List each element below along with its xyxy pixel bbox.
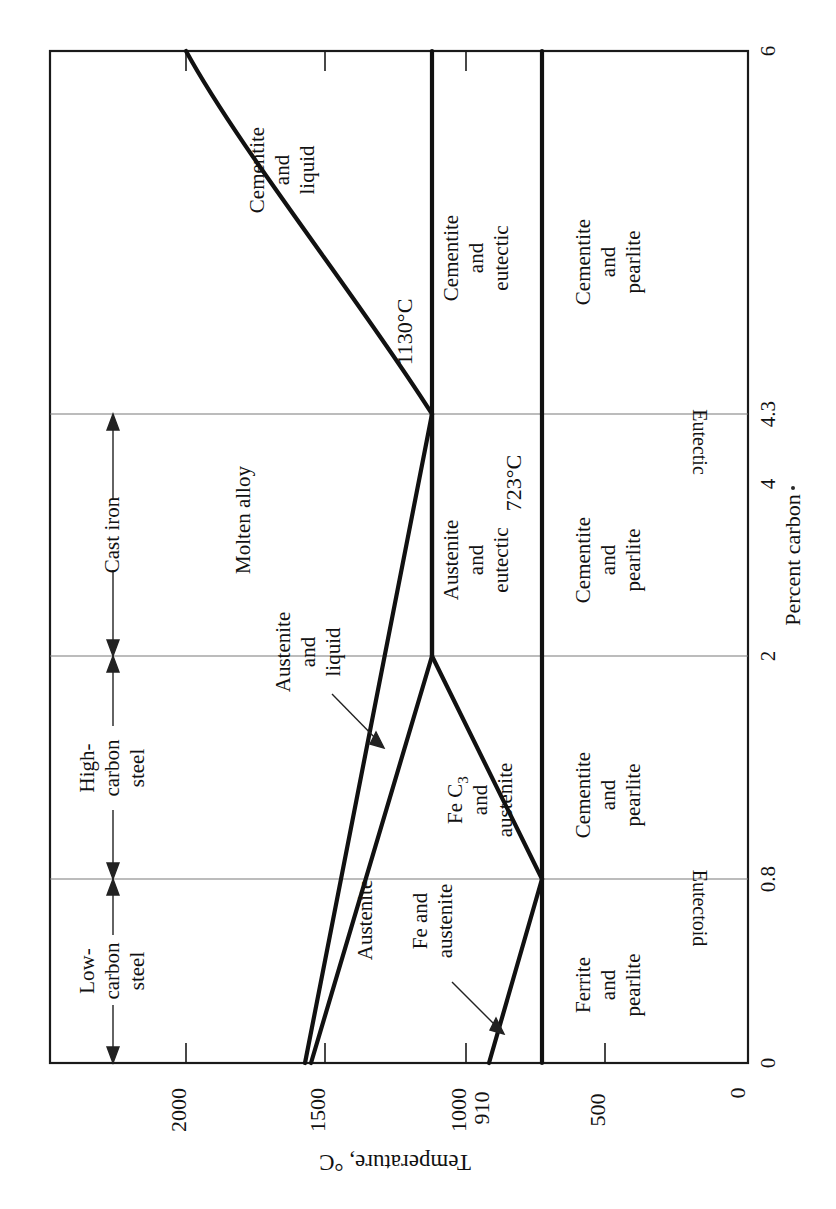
y-axis-title: Temperature, °C [319,1150,471,1175]
region-line-2: and [270,154,294,185]
label-1130C: 1130°C [392,299,417,366]
page-background [0,0,836,1209]
stray-dot-mark [791,486,795,490]
label-eutectoid: Eutectoid [689,870,711,947]
region-label-austenite: Austenite [353,880,377,960]
region-line-1: Cementite [439,215,463,301]
region-line-3: liquid [295,145,319,195]
bracket-label-line-2: carbon [100,942,124,1000]
x-axis-title: Percent carbon [780,494,805,625]
region-line-1: Fe and [408,892,432,949]
fe3c-formula-base: Fe C [443,784,467,824]
label-eutectic: Eutectic [689,409,711,475]
region-line-3: eutectic [489,527,513,592]
temp-tick-910: 910 [469,1092,494,1125]
bracket-label-line-3: steel [125,952,149,991]
region-line-3: pearlite [621,764,645,827]
label-723C: 723°C [501,455,526,511]
region-label-molten-alloy: Molten alloy [231,466,255,574]
region-line-2: and [596,246,620,277]
region-line-3: pearlite [621,954,645,1017]
region-line-2: and [464,544,488,575]
carbon-tick-0.8: 0.8 [756,866,780,892]
region-line-2: and [596,969,620,1000]
carbon-tick-6: 6 [756,46,780,57]
region-line-2: and [596,544,620,575]
temp-tick-1500: 1500 [305,1088,330,1132]
bracket-label-line-3: steel [125,749,149,788]
region-line-1: Ferrite [571,957,595,1013]
region-line-2: and [596,779,620,810]
region-line-3: austenite [493,763,517,838]
carbon-tick-4: 4 [756,478,780,489]
temp-tick-0: 0 [725,1088,750,1099]
region-line-2: and [296,636,320,667]
bracket-label-line-1: High- [75,744,99,793]
region-line-1: Cementite [571,517,595,603]
region-line-1: Cementite [245,127,269,213]
carbon-tick-0: 0 [756,1058,780,1069]
region-label-fe-and-austenite: Fe and austenite [408,884,457,959]
iron-carbon-phase-diagram: 0 0.8 2 4 4.3 6 Percent carbon 2000 1500… [0,0,836,1209]
region-line-2: and [468,784,492,815]
region-line-2: and [464,242,488,273]
region-line-3: eutectic [489,225,513,290]
region-line-1: Molten alloy [231,466,255,574]
region-line-3: pearlite [621,529,645,592]
bracket-label-line-1: Low- [75,948,99,994]
region-line-3: liquid [321,627,345,677]
region-line-3: pearlite [621,231,645,294]
bracket-label-line-1: Cast iron [100,496,124,573]
carbon-tick-2: 2 [756,651,780,662]
region-line-1: Cementite [571,219,595,305]
carbon-tick-4.3: 4.3 [756,401,780,427]
temp-tick-1000: 1000 [446,1088,471,1132]
region-line-1: Austenite [353,880,377,960]
region-line-2: austenite [433,884,457,959]
region-line-1: Austenite [271,612,295,692]
bracket-label-line-2: carbon [100,739,124,797]
region-line-1: Cementite [571,752,595,838]
temp-tick-500: 500 [585,1094,610,1127]
region-line-1: Austenite [439,520,463,600]
temp-tick-2000: 2000 [166,1088,191,1132]
fe3c-formula-subscript: 3 [455,776,471,784]
bracket-label-cast-iron: Cast iron [100,496,124,573]
